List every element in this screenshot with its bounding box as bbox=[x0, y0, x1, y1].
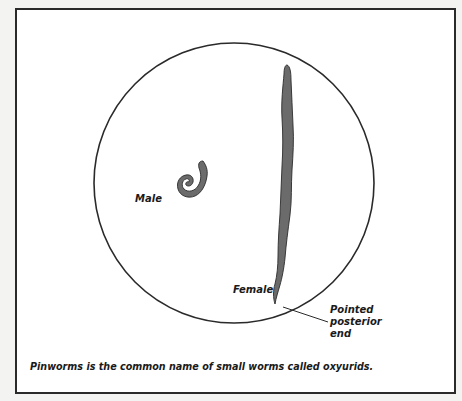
figure-page: Male Female Pointed posterior end Pinwor… bbox=[0, 0, 462, 401]
posterior-leader-line bbox=[283, 307, 328, 322]
male-label: Male bbox=[135, 193, 162, 205]
microscope-view-illustration bbox=[0, 0, 462, 401]
posterior-end-label: Pointed posterior end bbox=[330, 304, 382, 340]
male-worm-icon bbox=[177, 161, 207, 197]
female-worm-icon bbox=[274, 65, 294, 304]
female-label: Female bbox=[233, 284, 273, 296]
figure-caption: Pinworms is the common name of small wor… bbox=[30, 361, 373, 372]
microscope-field-circle bbox=[94, 43, 374, 323]
